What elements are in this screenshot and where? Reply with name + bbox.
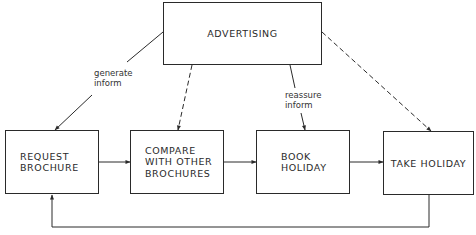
generate-inform-label: generate inform <box>94 68 133 88</box>
take-holiday-label: TAKE HOLIDAY <box>391 158 466 169</box>
compare-brochures-node: COMPARE WITH OTHER BROCHURES <box>130 130 224 194</box>
book-holiday-label: BOOK HOLIDAY <box>281 151 327 173</box>
advertising-label: ADVERTISING <box>207 28 278 39</box>
reassure-inform-label: reassure inform <box>285 90 322 110</box>
book-holiday-node: BOOK HOLIDAY <box>256 130 350 194</box>
advertising-node: ADVERTISING <box>163 2 322 65</box>
request-brochure-node: REQUEST BROCHURE <box>5 130 99 194</box>
take-holiday-node: TAKE HOLIDAY <box>383 131 474 195</box>
compare-brochures-label: COMPARE WITH OTHER BROCHURES <box>145 145 212 180</box>
request-brochure-label: REQUEST BROCHURE <box>20 151 79 173</box>
